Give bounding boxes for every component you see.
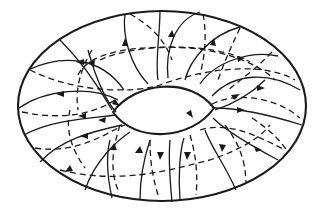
- arrow-icon: [112, 99, 120, 106]
- arrow-icon: [65, 165, 73, 172]
- arrow-down-icon: [219, 144, 226, 152]
- torus-inner-hole: [113, 87, 214, 134]
- arrow-down-icon: [184, 152, 191, 160]
- poloidal-dashed-segments: [68, 14, 288, 195]
- arrow-up-icon: [168, 30, 175, 37]
- direction-arrows: [56, 30, 265, 172]
- torus-outer-boundary: [18, 11, 306, 201]
- torus-field-lines-figure: [0, 0, 322, 212]
- arrow-left-icon: [98, 117, 106, 123]
- arrow-icon: [186, 110, 193, 118]
- arrow-down-icon: [157, 152, 164, 160]
- torus-diagram: [0, 0, 322, 212]
- arrow-right-icon: [237, 107, 245, 113]
- arrow-left-icon: [80, 133, 88, 139]
- arrow-down-icon: [135, 146, 143, 153]
- arrow-right-icon: [257, 85, 265, 91]
